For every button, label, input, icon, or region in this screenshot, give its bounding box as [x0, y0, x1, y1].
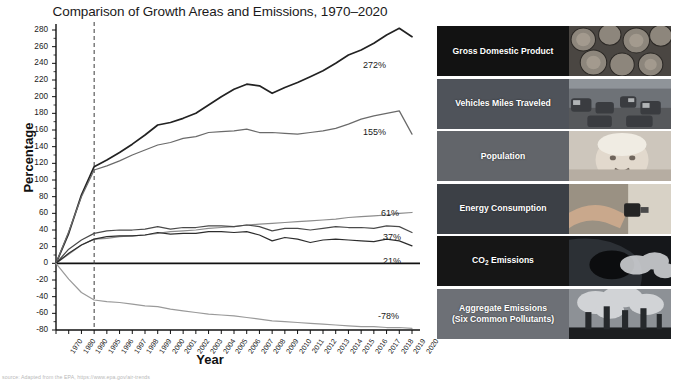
chart-figure: Comparison of Growth Areas and Emissions… — [0, 0, 674, 385]
y-tick-label: 240 — [22, 59, 48, 67]
y-tick-label: 0 — [22, 259, 48, 267]
series-value-label: 272% — [363, 60, 386, 70]
series-group — [56, 28, 412, 328]
y-tick-label: -60 — [22, 309, 48, 317]
y-tick-label: 160 — [22, 126, 48, 134]
y-tick-label: 100 — [22, 176, 48, 184]
chart-svg — [0, 0, 440, 348]
legend-item[interactable]: Aggregate Emissions(Six Common Pollutant… — [437, 289, 671, 339]
legend-item[interactable]: CO2 Emissions — [437, 236, 671, 286]
series-value-label: 155% — [363, 127, 386, 137]
y-tick-label: -80 — [22, 326, 48, 334]
series-line — [56, 263, 412, 328]
y-tick-label: 280 — [22, 26, 48, 34]
y-tick-label: 260 — [22, 43, 48, 51]
series-value-label: -78% — [378, 311, 399, 321]
series-value-label: 21% — [383, 256, 401, 266]
legend-item-thumbnail — [569, 26, 671, 76]
series-value-label: 61% — [381, 208, 399, 218]
series-value-label: 37% — [383, 232, 401, 242]
y-tick-label: 20 — [22, 243, 48, 251]
legend-item[interactable]: Energy Consumption — [437, 184, 671, 234]
y-tick-label: 140 — [22, 143, 48, 151]
legend-item-thumbnail — [569, 131, 671, 181]
legend-item[interactable]: Population — [437, 131, 671, 181]
legend-item-label: Gross Domestic Product — [437, 26, 569, 76]
legend-item[interactable]: Vehicles Miles Traveled — [437, 79, 671, 129]
series-line — [56, 225, 412, 263]
plot-area: -80-60-40-200204060801001201401601802002… — [0, 0, 440, 348]
legend-item-label: Aggregate Emissions(Six Common Pollutant… — [437, 289, 569, 339]
y-tick-label: -20 — [22, 276, 48, 284]
x-axis-title: Year — [120, 352, 300, 367]
y-tick-label: 80 — [22, 193, 48, 201]
legend-item-thumbnail — [569, 184, 671, 234]
y-tick-label: -40 — [22, 293, 48, 301]
y-tick-label: 180 — [22, 109, 48, 117]
legend-item-label: Vehicles Miles Traveled — [437, 79, 569, 129]
legend-item-thumbnail — [569, 79, 671, 129]
y-tick-label: 120 — [22, 159, 48, 167]
chart-legend: Gross Domestic Product Vehicles Miles Tr… — [437, 26, 671, 339]
y-tick-label: 60 — [22, 209, 48, 217]
y-tick-label: 200 — [22, 93, 48, 101]
series-line — [56, 213, 412, 264]
y-tick-label: 220 — [22, 76, 48, 84]
legend-item-thumbnail — [569, 236, 671, 286]
legend-item-label: Energy Consumption — [437, 184, 569, 234]
y-tick-label: 40 — [22, 226, 48, 234]
legend-item-label: CO2 Emissions — [437, 236, 569, 286]
source-footnote: source: Adapted from the EPA, https://ww… — [2, 374, 150, 380]
legend-item-thumbnail — [569, 289, 671, 339]
legend-item[interactable]: Gross Domestic Product — [437, 26, 671, 76]
series-line — [56, 232, 412, 264]
legend-item-label: Population — [437, 131, 569, 181]
